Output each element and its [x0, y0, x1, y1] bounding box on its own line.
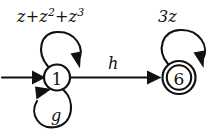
transition-1-to-6-label: h: [108, 56, 118, 72]
self-loop-state-1-top: [41, 32, 81, 69]
label-sup-z2: 2: [48, 6, 55, 19]
state-node-6[interactable]: 6: [163, 61, 196, 94]
self-loop-state-1-bottom-label: g: [51, 108, 61, 124]
label-term-z1: z: [17, 7, 26, 26]
state-diagram-canvas: 1 6 z+z2+z3 3z h g: [0, 0, 222, 136]
state-node-1-label: 1: [52, 69, 63, 89]
transition-1-to-6-arrowhead: [147, 71, 162, 85]
label-term-z2: +z: [26, 7, 48, 26]
label-sup-z3: 3: [77, 6, 84, 19]
self-loop-state-6-top-arrowhead: [194, 51, 205, 69]
label-term-z3: +z: [55, 7, 77, 26]
start-arrow: [2, 71, 46, 85]
state-node-6-label: 6: [174, 69, 185, 89]
state-node-1[interactable]: 1: [44, 65, 70, 91]
self-loop-state-1-top-path: [41, 32, 81, 67]
self-loop-state-1-top-label: z+z2+z3: [17, 9, 84, 25]
self-loop-state-1-top-arrowhead: [71, 52, 82, 69]
self-loop-state-6-top-label: 3z: [158, 9, 177, 25]
